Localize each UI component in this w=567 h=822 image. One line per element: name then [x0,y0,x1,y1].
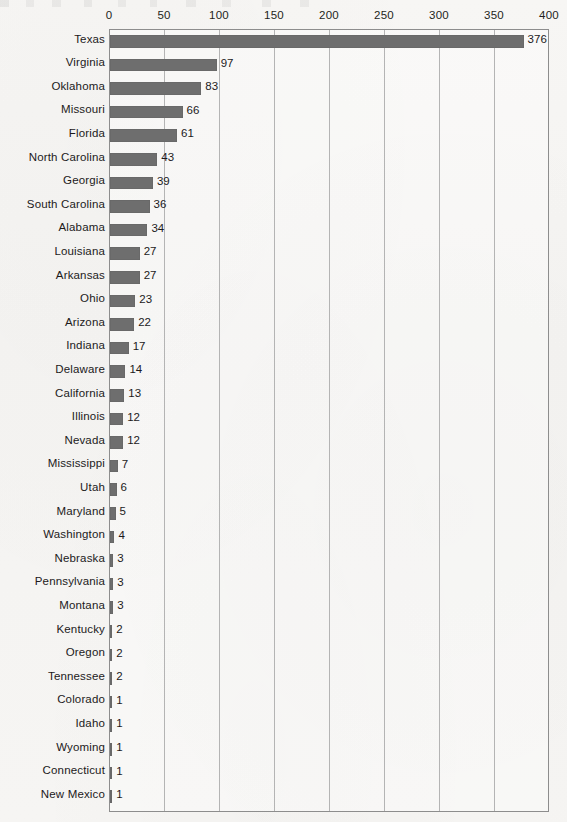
bar[interactable] [110,177,153,190]
category-label: Alabama [59,221,105,233]
bar-row[interactable]: Arkansas27 [0,266,567,290]
category-label: Washington [43,528,105,540]
bar-row[interactable]: Illinois12 [0,407,567,431]
bar-value-label: 1 [116,741,122,753]
bar[interactable] [110,649,112,662]
bar-row[interactable]: Oregon2 [0,643,567,667]
bar-value-label: 5 [120,505,126,517]
bar[interactable] [110,696,112,709]
bar-row[interactable]: California13 [0,384,567,408]
bar-row[interactable]: Montana3 [0,596,567,620]
bar[interactable] [110,318,134,331]
bar-row[interactable]: Missouri66 [0,100,567,124]
bar-value-label: 2 [116,670,122,682]
category-label: Connecticut [43,764,105,776]
category-label: California [55,387,105,399]
bar-row[interactable]: Tennessee2 [0,667,567,691]
bar[interactable] [110,719,112,732]
bar-row[interactable]: Maryland5 [0,502,567,526]
category-label: Georgia [63,174,105,186]
bar[interactable] [110,200,150,213]
bar-value-label: 83 [205,80,218,92]
bar-row[interactable]: Nevada12 [0,431,567,455]
bar[interactable] [110,507,116,520]
bar-row[interactable]: Connecticut1 [0,761,567,785]
bar[interactable] [110,767,112,780]
category-label: Oregon [66,646,105,658]
bar[interactable] [110,672,112,685]
bar-value-label: 6 [121,481,127,493]
bar-value-label: 17 [133,340,146,352]
category-label: Nebraska [55,552,105,564]
bar[interactable] [110,436,123,449]
bar-row[interactable]: Florida61 [0,124,567,148]
bar-row[interactable]: Colorado1 [0,690,567,714]
bar-value-label: 2 [116,647,122,659]
bar[interactable] [110,625,112,638]
category-label: Montana [59,599,105,611]
category-label: Ohio [80,292,105,304]
bar[interactable] [110,483,117,496]
bar-row[interactable]: Louisiana27 [0,242,567,266]
category-label: Florida [69,127,105,139]
bar-row[interactable]: Oklahoma83 [0,77,567,101]
bar-row[interactable]: Pennsylvania3 [0,572,567,596]
bar-row[interactable]: Ohio23 [0,289,567,313]
bar[interactable] [110,460,118,473]
bar-row[interactable]: Mississippi7 [0,454,567,478]
category-label: Maryland [57,505,106,517]
category-label: South Carolina [27,198,105,210]
bar-value-label: 4 [118,529,124,541]
category-label: Illinois [72,410,105,422]
bar[interactable] [110,153,157,166]
bar[interactable] [110,389,124,402]
category-label: Indiana [66,339,105,351]
bar[interactable] [110,413,123,426]
bar[interactable] [110,82,201,95]
category-label: Idaho [75,717,105,729]
bar-row[interactable]: Idaho1 [0,714,567,738]
bar-row[interactable]: Kentucky2 [0,620,567,644]
bar-value-label: 1 [116,717,122,729]
category-label: Delaware [55,363,105,375]
bar[interactable] [110,365,125,378]
bar-row[interactable]: Texas376 [0,30,567,54]
category-label: Oklahoma [51,80,105,92]
bar-row[interactable]: Alabama34 [0,218,567,242]
bar[interactable] [110,129,177,142]
bar-row[interactable]: Indiana17 [0,336,567,360]
bar[interactable] [110,342,129,355]
bar[interactable] [110,35,524,48]
bar[interactable] [110,578,113,591]
bar[interactable] [110,743,112,756]
bar-row[interactable]: Washington4 [0,525,567,549]
bar[interactable] [110,224,147,237]
category-label: Utah [80,481,105,493]
bar-row[interactable]: Utah6 [0,478,567,502]
bar-value-label: 14 [129,363,142,375]
bar-row[interactable]: Delaware14 [0,360,567,384]
bar-row[interactable]: Georgia39 [0,171,567,195]
bar-row[interactable]: North Carolina43 [0,148,567,172]
bar[interactable] [110,601,113,614]
bar-value-label: 66 [187,104,200,116]
bar-row[interactable]: South Carolina36 [0,195,567,219]
bar[interactable] [110,59,217,72]
bar[interactable] [110,271,140,284]
bar[interactable] [110,531,114,544]
bar-row[interactable]: Wyoming1 [0,738,567,762]
bar-row[interactable]: New Mexico1 [0,785,567,809]
bar-row[interactable]: Nebraska3 [0,549,567,573]
bar-value-label: 27 [144,245,157,257]
category-label: Wyoming [56,741,105,753]
category-label: Arizona [65,316,105,328]
bar[interactable] [110,790,112,803]
bar[interactable] [110,554,113,567]
bar-row[interactable]: Arizona22 [0,313,567,337]
bar-value-label: 1 [116,694,122,706]
bar-row[interactable]: Virginia97 [0,53,567,77]
bar-value-label: 22 [138,316,151,328]
bar[interactable] [110,247,140,260]
bar[interactable] [110,106,183,119]
bar[interactable] [110,295,135,308]
